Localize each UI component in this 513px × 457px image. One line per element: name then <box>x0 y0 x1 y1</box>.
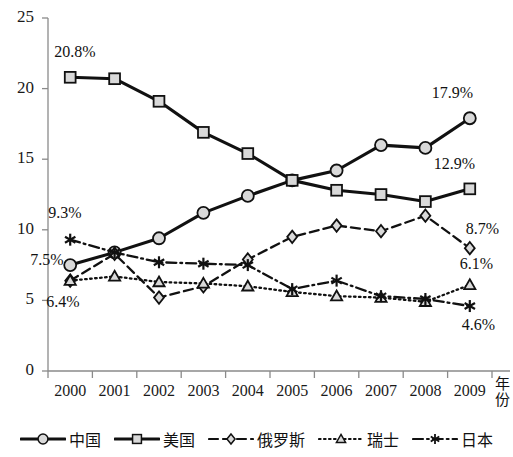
data-label: 4.6% <box>462 316 495 334</box>
data-label: 6.1% <box>460 255 493 273</box>
legend-item-俄罗斯[interactable]: 俄罗斯 <box>208 427 305 451</box>
x-axis-tick-label: 2004 <box>225 382 271 400</box>
legend-marker-triangle-icon <box>318 430 364 448</box>
y-axis-tick-label: 15 <box>0 148 34 168</box>
data-label: 6.4% <box>46 293 79 311</box>
legend-marker-diamond-icon <box>208 430 254 448</box>
x-axis-tick-label: 2001 <box>92 382 138 400</box>
y-axis-tick-label: 5 <box>0 289 34 309</box>
data-label: 20.8% <box>54 43 95 61</box>
legend-item-美国[interactable]: 美国 <box>114 427 195 451</box>
x-axis-tick-label: 2008 <box>402 382 448 400</box>
legend-label: 日本 <box>461 427 493 451</box>
data-label: 8.7% <box>466 220 499 238</box>
data-label: 12.9% <box>434 155 475 173</box>
legend-marker-asterisk-icon <box>412 430 458 448</box>
chart-legend: 中国美国俄罗斯瑞士日本 <box>0 424 513 454</box>
legend-item-日本[interactable]: 日本 <box>412 427 493 451</box>
x-axis-tick-label: 2009 <box>447 382 493 400</box>
x-axis-title: 年份 <box>494 376 511 408</box>
legend-marker-circle-icon <box>20 430 66 448</box>
line-chart: 0510152025 20002001200220032004200520062… <box>0 0 513 457</box>
y-axis-tick-label: 0 <box>0 360 34 380</box>
y-axis-tick-label: 20 <box>0 78 34 98</box>
legend-label: 瑞士 <box>367 427 399 451</box>
legend-label: 俄罗斯 <box>257 427 305 451</box>
x-axis-tick-label: 2007 <box>358 382 404 400</box>
data-label: 9.3% <box>48 204 81 222</box>
x-axis-tick-label: 2000 <box>47 382 93 400</box>
legend-marker-square-icon <box>114 430 160 448</box>
x-axis-tick-label: 2006 <box>314 382 360 400</box>
x-axis-tick-label: 2002 <box>136 382 182 400</box>
data-label: 7.5% <box>30 251 63 269</box>
legend-item-瑞士[interactable]: 瑞士 <box>318 427 399 451</box>
y-axis-tick-label: 25 <box>0 7 34 27</box>
data-series-layer <box>64 72 476 312</box>
x-axis-tick-label: 2003 <box>180 382 226 400</box>
y-axis-tick-label: 10 <box>0 219 34 239</box>
legend-label: 中国 <box>69 427 101 451</box>
data-label: 17.9% <box>432 84 473 102</box>
legend-item-中国[interactable]: 中国 <box>20 427 101 451</box>
x-axis-tick-label: 2005 <box>269 382 315 400</box>
legend-label: 美国 <box>163 427 195 451</box>
